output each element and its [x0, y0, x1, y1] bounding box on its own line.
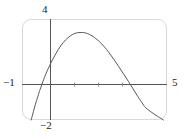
x-axis-max-label: 5: [172, 77, 178, 88]
y-axis-max-label: 4: [42, 4, 48, 15]
plot-frame: [22, 19, 167, 120]
y-axis-min-label: −2: [40, 120, 52, 131]
graph-screenshot: 4 −2 −1 5: [0, 0, 189, 138]
x-axis-min-label: −1: [3, 77, 15, 88]
